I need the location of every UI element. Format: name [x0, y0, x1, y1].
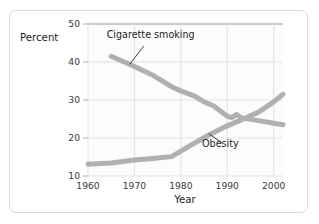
y-tick-label-50: 50: [68, 18, 80, 29]
x-tick-label-2000: 2000: [262, 180, 286, 191]
figure-root: 1020304050 19601970198019902000 Percent …: [0, 0, 319, 224]
x-axis-title: Year: [173, 194, 196, 205]
axis-tick-marks: [83, 24, 88, 176]
y-tick-label-40: 40: [68, 56, 80, 67]
x-tick-label-1980: 1980: [169, 180, 193, 191]
y-tick-label-30: 30: [68, 94, 80, 105]
x-axis-tick-labels: 19601970198019902000: [76, 180, 285, 191]
x-tick-label-1960: 1960: [76, 180, 100, 191]
percent-trend-line-chart: 1020304050 19601970198019902000 Percent …: [0, 0, 319, 224]
x-tick-label-1970: 1970: [123, 180, 147, 191]
y-axis-title: Percent: [20, 32, 58, 43]
x-tick-label-1990: 1990: [216, 180, 240, 191]
y-tick-label-20: 20: [68, 132, 80, 143]
annotation-cigarette-smoking: Cigarette smoking: [107, 29, 195, 40]
annotation-obesity: Obesity: [202, 138, 239, 149]
y-axis-tick-labels: 1020304050: [68, 18, 80, 181]
